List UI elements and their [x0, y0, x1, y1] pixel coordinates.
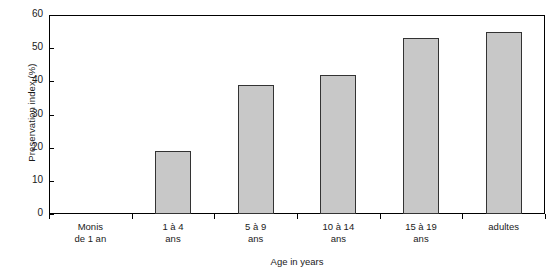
bar-4 — [403, 38, 439, 214]
x-tick-mark — [297, 214, 298, 219]
x-tick-mark — [214, 214, 215, 219]
x-tick-mark — [49, 214, 50, 219]
bars-container — [49, 15, 545, 214]
x-tick-mark — [462, 214, 463, 219]
bar-3 — [320, 75, 356, 214]
x-category-label-line2: ans — [380, 233, 463, 245]
y-tick-label: 40 — [0, 74, 43, 85]
x-category-label-3: 10 à 14ans — [297, 221, 380, 244]
y-tick-label: 10 — [0, 174, 43, 185]
bar-chart: Preservation index (%) 0102030405060 Mon… — [0, 0, 555, 277]
bar-2 — [238, 85, 274, 214]
y-tick-label: 60 — [0, 8, 43, 19]
x-category-label-line2: ans — [297, 233, 380, 245]
x-category-label-0: Monisde 1 an — [49, 221, 132, 244]
x-category-label-line2: ans — [132, 233, 215, 245]
x-category-label-5: adultes — [462, 221, 545, 233]
x-category-label-line1: 15 à 19 — [405, 221, 437, 232]
x-category-label-line2: de 1 an — [49, 233, 132, 245]
x-tick-mark — [132, 214, 133, 219]
x-category-label-line1: adultes — [488, 221, 519, 232]
x-tick-mark — [545, 214, 546, 219]
x-axis-title: Age in years — [49, 256, 545, 267]
bar-1 — [155, 151, 191, 214]
y-tick-label: 20 — [0, 141, 43, 152]
x-category-label-line1: 10 à 14 — [322, 221, 354, 232]
x-category-label-4: 15 à 19ans — [380, 221, 463, 244]
y-tick-label: 0 — [0, 207, 43, 218]
x-tick-mark — [380, 214, 381, 219]
x-category-label-1: 1 à 4ans — [132, 221, 215, 244]
y-tick-label: 30 — [0, 108, 43, 119]
bar-5 — [486, 32, 522, 214]
x-category-label-line1: 5 à 9 — [245, 221, 266, 232]
x-category-label-line1: Monis — [78, 221, 103, 232]
x-category-label-line1: 1 à 4 — [162, 221, 183, 232]
x-category-label-2: 5 à 9ans — [214, 221, 297, 244]
y-tick-label: 50 — [0, 41, 43, 52]
x-category-label-line2: ans — [214, 233, 297, 245]
